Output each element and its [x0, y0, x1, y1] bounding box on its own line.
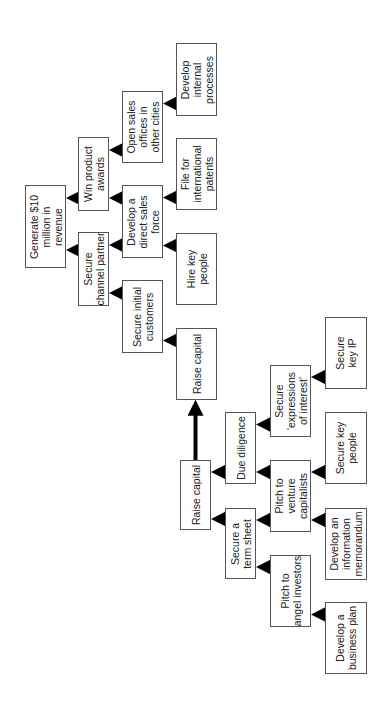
node-label: Open sales offices in other cities	[125, 100, 161, 153]
node-label: Hire key people	[185, 250, 209, 289]
node-label: Develop a direct sales force	[125, 195, 161, 248]
node-label: Pitch to angel investors	[279, 556, 303, 627]
node-info-memo: Develop an information memorandum	[325, 508, 367, 580]
node-label: Pitch to venture capitalists	[273, 473, 309, 519]
node-label: Secure key people	[334, 422, 358, 475]
node-label: File for international patents	[179, 145, 215, 202]
node-expressions: Secure 'expressions of interest'	[270, 365, 311, 437]
node-key-ip: Secure key IP	[325, 317, 367, 389]
node-label: Due diligence	[235, 416, 247, 480]
node-label: Raise capital	[190, 465, 202, 525]
node-pitch-vc: Pitch to venture capitalists	[270, 460, 311, 532]
node-term-sheet: Secure a term sheet	[225, 508, 256, 579]
node-label: Secure key IP	[334, 336, 358, 369]
node-open-offices: Open sales offices in other cities	[122, 91, 163, 163]
node-label: Win product awards	[82, 146, 106, 202]
node-label: Develop internal processes	[179, 56, 215, 104]
node-label: Raise capital	[191, 334, 203, 394]
node-pitch-angel: Pitch to angel investors	[270, 555, 311, 627]
node-intl-patents: File for international patents	[176, 138, 217, 210]
node-key-people: Secure key people	[325, 412, 367, 484]
node-channel-partner: Secure channel partner	[78, 232, 109, 306]
node-due-diligence: Due diligence	[225, 412, 256, 484]
node-hire-key: Hire key people	[176, 233, 217, 305]
node-label: Secure initial customers	[131, 286, 155, 346]
node-label: Secure 'expressions of interest'	[273, 372, 309, 430]
node-raise-capital-1: Raise capital	[180, 460, 211, 530]
node-initial-customers: Secure initial customers	[122, 280, 163, 353]
node-label: Generate $10 million in revenue	[28, 194, 64, 258]
node-win-awards: Win product awards	[78, 137, 109, 211]
node-label: Develop an information memorandum	[328, 512, 364, 577]
node-label: Secure channel partner	[82, 233, 106, 306]
node-direct-sales: Develop a direct sales force	[122, 185, 163, 258]
node-label: Develop a business plan	[334, 606, 358, 670]
node-label: Secure a term sheet	[229, 519, 253, 569]
node-internal-processes: Develop internal processes	[176, 43, 217, 116]
node-raise-capital-2: Raise capital	[176, 328, 217, 400]
node-business-plan: Develop a business plan	[325, 602, 367, 674]
node-generate: Generate $10 million in revenue	[25, 185, 66, 268]
